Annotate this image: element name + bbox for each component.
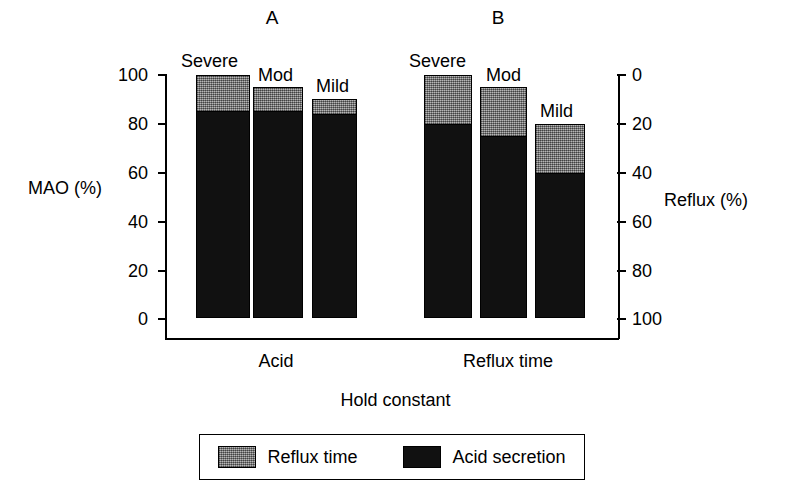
right-tick-label-40: 40 bbox=[632, 164, 680, 182]
left-tick-label-40: 40 bbox=[100, 213, 148, 231]
right-axis-line bbox=[618, 74, 620, 339]
bar-label-b-severe: Severe bbox=[409, 52, 466, 70]
left-axis-line bbox=[165, 74, 167, 339]
bar-a-severe-acid-segment bbox=[196, 111, 250, 318]
bar-label-b-mod: Mod bbox=[486, 66, 521, 84]
bar-a-mod-acid-segment bbox=[253, 111, 303, 318]
bar-b-mild[interactable] bbox=[535, 124, 585, 318]
bar-b-severe[interactable] bbox=[424, 75, 472, 318]
bar-b-mild-acid-segment bbox=[535, 173, 585, 318]
legend-label-reflux-time: Reflux time bbox=[267, 448, 357, 466]
x-axis-line bbox=[165, 338, 619, 340]
group-label-reflux-time: Reflux time bbox=[443, 352, 573, 370]
x-axis-title: Hold constant bbox=[0, 391, 791, 409]
legend-entry-acid-secretion[interactable]: Acid secretion bbox=[403, 446, 565, 468]
left-tick-0 bbox=[158, 318, 167, 320]
chart-root: A B 100 80 60 40 20 0 MAO (%) 0 20 40 60… bbox=[0, 0, 791, 497]
left-tick-100 bbox=[158, 74, 167, 76]
left-tick-label-20: 20 bbox=[100, 262, 148, 280]
bar-a-mild-acid-segment bbox=[312, 114, 357, 318]
bar-b-severe-reflux-segment bbox=[424, 75, 472, 125]
right-tick-label-0: 0 bbox=[632, 66, 680, 84]
left-tick-label-0: 0 bbox=[100, 310, 148, 328]
bar-a-mod[interactable] bbox=[253, 87, 303, 318]
right-tick-60 bbox=[617, 221, 626, 223]
legend-swatch-acid-secretion-icon bbox=[403, 446, 441, 468]
bar-a-mild[interactable] bbox=[312, 99, 357, 318]
left-tick-label-100: 100 bbox=[100, 66, 148, 84]
left-tick-label-80: 80 bbox=[100, 115, 148, 133]
right-tick-80 bbox=[617, 270, 626, 272]
legend-label-acid-secretion: Acid secretion bbox=[452, 448, 565, 466]
bar-a-severe[interactable] bbox=[196, 75, 250, 318]
left-tick-20 bbox=[158, 270, 167, 272]
legend-swatch-reflux-time-icon bbox=[218, 446, 256, 468]
bar-a-mild-reflux-segment bbox=[312, 99, 357, 115]
left-tick-label-60: 60 bbox=[100, 164, 148, 182]
left-tick-80 bbox=[158, 123, 167, 125]
right-tick-label-20: 20 bbox=[632, 115, 680, 133]
panel-letter-a: A bbox=[252, 8, 292, 27]
right-tick-0 bbox=[617, 74, 626, 76]
bar-a-severe-reflux-segment bbox=[196, 75, 250, 112]
group-label-acid: Acid bbox=[226, 352, 326, 370]
right-tick-label-100: 100 bbox=[632, 310, 680, 328]
legend: Reflux time Acid secretion bbox=[199, 434, 585, 480]
bar-a-mod-reflux-segment bbox=[253, 87, 303, 112]
right-tick-label-60: 60 bbox=[632, 213, 680, 231]
right-axis-title: Reflux (%) bbox=[664, 190, 748, 210]
bar-b-mod-acid-segment bbox=[480, 136, 527, 318]
right-tick-label-80: 80 bbox=[632, 262, 680, 280]
bar-b-mod[interactable] bbox=[480, 87, 527, 318]
right-tick-40 bbox=[617, 172, 626, 174]
bar-label-a-mod: Mod bbox=[258, 66, 293, 84]
right-tick-100 bbox=[617, 318, 626, 320]
bar-label-a-mild: Mild bbox=[316, 77, 349, 95]
left-axis-title: MAO (%) bbox=[28, 178, 102, 198]
left-tick-40 bbox=[158, 221, 167, 223]
bar-b-mild-reflux-segment bbox=[535, 124, 585, 174]
legend-entry-reflux-time[interactable]: Reflux time bbox=[218, 446, 357, 468]
bar-label-a-severe: Severe bbox=[181, 52, 238, 70]
bar-b-severe-acid-segment bbox=[424, 124, 472, 318]
bar-label-b-mild: Mild bbox=[540, 102, 573, 120]
right-tick-20 bbox=[617, 123, 626, 125]
bar-b-mod-reflux-segment bbox=[480, 87, 527, 137]
panel-letter-b: B bbox=[478, 8, 518, 27]
left-tick-60 bbox=[158, 172, 167, 174]
